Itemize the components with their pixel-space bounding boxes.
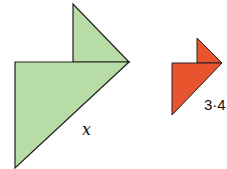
similar-shapes-diagram: x 3·4 (0, 0, 227, 169)
green-large-triangle (15, 62, 129, 168)
green-side-label: x (82, 120, 91, 139)
orange-small-triangle (197, 38, 222, 63)
green-small-triangle (73, 4, 129, 62)
orange-side-label: 3·4 (204, 96, 226, 113)
